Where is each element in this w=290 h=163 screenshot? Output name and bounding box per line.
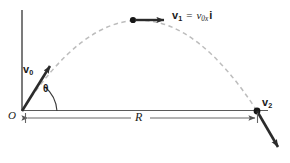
figure-canvas — [0, 0, 290, 163]
label-v0-subscript: 0 — [29, 68, 33, 77]
label-v2-subscript: 2 — [268, 101, 272, 110]
label-equals: = — [186, 9, 192, 21]
label-theta: θ — [43, 84, 48, 94]
label-v1-equation: v1=v0xi — [172, 10, 212, 23]
label-v0x-subscript: 0x — [201, 15, 208, 23]
label-range: R — [135, 111, 142, 123]
label-unit-vector-i: i — [209, 9, 212, 21]
label-v0: v0 — [23, 64, 33, 76]
trajectory-path — [22, 20, 257, 111]
label-v1-subscript: 1 — [178, 14, 182, 23]
v2-vector — [257, 111, 278, 147]
label-v2: v2 — [262, 97, 272, 109]
label-origin: O — [8, 110, 16, 121]
projectile-motion-figure: v0 θ O R v1=v0xi v2 — [0, 0, 290, 163]
